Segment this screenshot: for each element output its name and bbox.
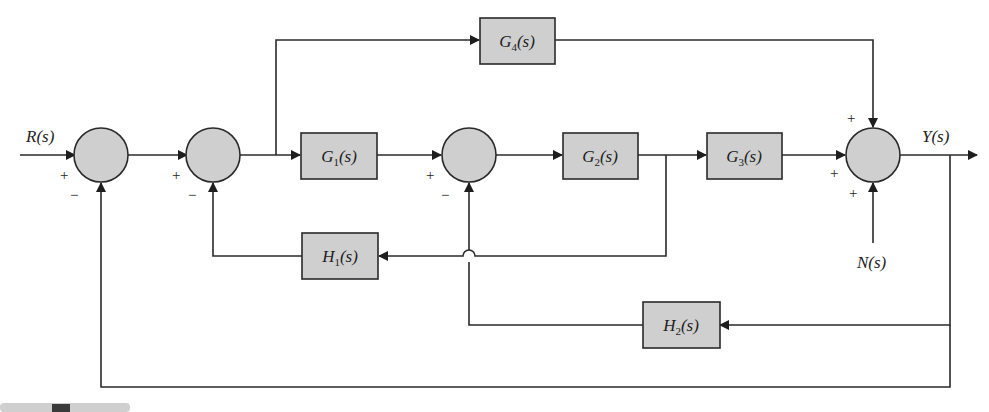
summing-junction-1 [74, 128, 128, 182]
s1-plus-sign: + [60, 167, 68, 183]
wire-h2-to-s3 [469, 262, 643, 325]
s3-minus-sign: − [441, 187, 449, 203]
output-signal-label: Y(s) [922, 127, 950, 146]
s4-plus-left-sign: + [830, 165, 838, 181]
block-g1-label: G1(s) [321, 147, 357, 168]
disturbance-signal-label: N(s) [856, 253, 887, 272]
block-g4-label: G4(s) [499, 32, 535, 53]
summing-junction-2 [186, 128, 240, 182]
summing-junction-3 [442, 128, 496, 182]
s2-plus-sign: + [172, 167, 180, 183]
figure-tag-icon [52, 404, 70, 412]
wire-unity-feedback [101, 183, 950, 387]
input-signal-label: R(s) [25, 127, 55, 146]
wire-g4-to-s4 [555, 40, 873, 127]
s4-plus-top-sign: + [847, 110, 855, 126]
block-h1-label: H1(s) [321, 247, 358, 268]
s2-minus-sign: − [188, 187, 196, 203]
block-h2-label: H2(s) [662, 316, 699, 337]
block-g3-label: G3(s) [726, 147, 762, 168]
block-g2-label: G2(s) [582, 147, 618, 168]
summing-junction-4 [846, 128, 900, 182]
s1-minus-sign: − [70, 187, 78, 203]
s4-plus-bottom-sign: + [849, 185, 857, 201]
s3-plus-sign: + [426, 167, 434, 183]
wire-h1-to-s2 [213, 183, 302, 256]
block-diagram: G1(s) G2(s) G3(s) G4(s) H1(s) H2(s) R(s)… [0, 0, 989, 412]
